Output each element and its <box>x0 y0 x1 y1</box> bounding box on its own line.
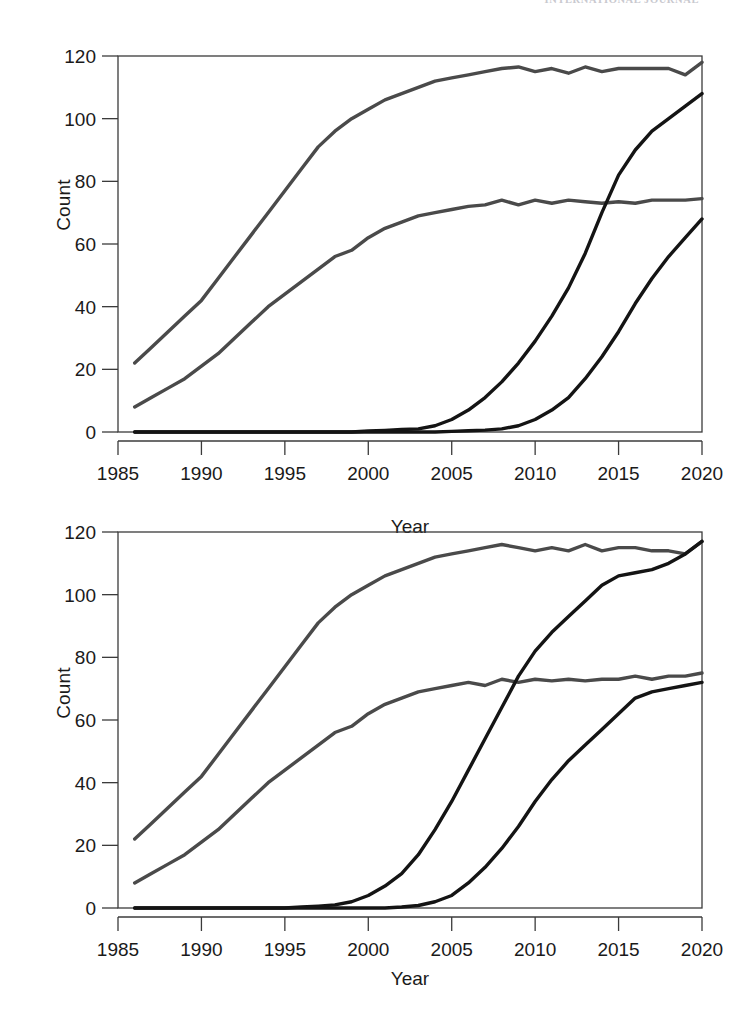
x-tick-label: 2005 <box>431 463 473 484</box>
series-line-lower-gray <box>135 673 702 883</box>
y-tick-label: 120 <box>64 46 96 67</box>
x-tick-label: 2000 <box>347 463 389 484</box>
y-tick-label: 40 <box>75 773 96 794</box>
series-line-upper-black <box>135 541 702 908</box>
x-tick-label: 1995 <box>264 939 306 960</box>
x-tick-label: 2020 <box>681 939 723 960</box>
y-tick-labels-top: 020406080100120 <box>64 46 96 443</box>
y-tick-label: 60 <box>75 234 96 255</box>
x-axis-title-bottom: Year <box>118 968 702 990</box>
x-tick-label: 2015 <box>597 939 639 960</box>
series-line-lower-black <box>135 682 702 908</box>
series-line-lower-black <box>135 219 702 432</box>
y-tick-labels-bottom: 020406080100120 <box>64 522 96 919</box>
series-group-top <box>135 62 702 432</box>
y-tick-label: 120 <box>64 522 96 543</box>
chart-panel-bottom: Count 020406080100120 198519901995200020… <box>0 500 747 1000</box>
series-line-upper-black <box>135 94 702 432</box>
plot-frame-top <box>118 56 702 432</box>
y-tick-label: 20 <box>75 835 96 856</box>
x-tick-label: 2005 <box>431 939 473 960</box>
plot-frame-bottom <box>118 532 702 908</box>
x-tick-label: 2015 <box>597 463 639 484</box>
running-header: INTERNATIONAL JOURNAL <box>0 0 747 8</box>
series-line-lower-gray <box>135 199 702 407</box>
chart-svg-top: 020406080100120 198519901995200020052010… <box>0 24 747 494</box>
series-group-bottom <box>135 541 702 908</box>
x-tick-label: 1995 <box>264 463 306 484</box>
x-tick-label: 2000 <box>347 939 389 960</box>
y-tick-label: 60 <box>75 710 96 731</box>
y-tick-label: 80 <box>75 171 96 192</box>
x-tick-labels-top: 19851990199520002005201020152020 <box>97 463 723 484</box>
x-tick-label: 1990 <box>180 939 222 960</box>
axis-ticks-top <box>102 56 702 455</box>
x-tick-label: 2010 <box>514 463 556 484</box>
x-tick-label: 1985 <box>97 463 139 484</box>
y-tick-label: 80 <box>75 647 96 668</box>
chart-panel-top: Count 020406080100120 198519901995200020… <box>0 24 747 494</box>
y-tick-label: 40 <box>75 297 96 318</box>
x-tick-label: 1990 <box>180 463 222 484</box>
y-tick-label: 20 <box>75 359 96 380</box>
y-tick-label: 100 <box>64 585 96 606</box>
series-line-upper-gray <box>135 62 702 363</box>
x-tick-label: 2020 <box>681 463 723 484</box>
y-tick-label: 100 <box>64 109 96 130</box>
chart-svg-bottom: 020406080100120 198519901995200020052010… <box>0 500 747 970</box>
y-tick-label: 0 <box>85 422 96 443</box>
x-tick-label: 1985 <box>97 939 139 960</box>
plot-area-bottom: 020406080100120 198519901995200020052010… <box>0 500 747 970</box>
y-tick-label: 0 <box>85 898 96 919</box>
x-tick-label: 2010 <box>514 939 556 960</box>
plot-area-top: 020406080100120 198519901995200020052010… <box>0 24 747 494</box>
x-tick-labels-bottom: 19851990199520002005201020152020 <box>97 939 723 960</box>
